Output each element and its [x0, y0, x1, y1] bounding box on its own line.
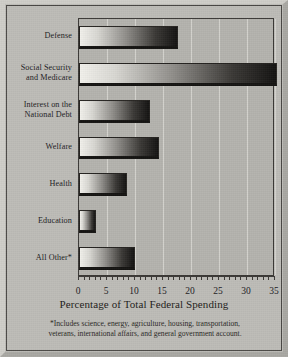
x-minor-tick: [201, 276, 202, 280]
x-minor-tick: [128, 276, 129, 280]
bar-row: [79, 137, 273, 160]
figure-chart-federal-spending: DefenseSocial Securityand MedicareIntere…: [0, 0, 288, 357]
category-label-line: Welfare: [46, 142, 72, 152]
bar: [79, 247, 135, 270]
bar-row: [79, 210, 273, 233]
x-minor-tick: [274, 276, 275, 280]
x-tick-label-15: 15: [147, 285, 177, 297]
x-minor-tick: [240, 276, 241, 280]
x-tick-label-25: 25: [203, 285, 233, 297]
x-minor-tick: [252, 276, 253, 280]
category-label: Welfare: [46, 142, 72, 152]
x-axis-title: Percentage of Total Federal Spending: [0, 297, 288, 311]
category-label-line: Social Security: [21, 63, 72, 73]
bar: [79, 100, 150, 123]
x-minor-tick: [84, 276, 85, 280]
x-minor-tick: [145, 276, 146, 280]
x-minor-tick: [162, 276, 163, 280]
bars-group: [79, 19, 273, 275]
x-tick-label-10: 10: [119, 285, 149, 297]
x-minor-tick: [212, 276, 213, 280]
x-minor-tick: [224, 276, 225, 280]
bar: [79, 63, 277, 86]
category-label-line: and Medicare: [21, 73, 72, 83]
x-minor-tick: [112, 276, 113, 280]
bar-row: [79, 100, 273, 123]
gridline-35: [275, 19, 276, 275]
bar: [79, 26, 178, 49]
x-minor-tick: [184, 276, 185, 280]
bar: [79, 210, 96, 233]
x-minor-tick: [235, 276, 236, 280]
x-minor-tick: [156, 276, 157, 280]
x-minor-tick: [106, 276, 107, 280]
category-label: Social Securityand Medicare: [21, 63, 72, 82]
category-label-line: Health: [50, 179, 72, 189]
x-tick-label-20: 20: [175, 285, 205, 297]
category-label-line: Education: [38, 216, 72, 226]
bar-row: [79, 173, 273, 196]
x-minor-tick: [196, 276, 197, 280]
footnote-line-2: veterans, international affairs, and gen…: [18, 329, 272, 339]
bar-row: [79, 26, 273, 49]
bar: [79, 137, 159, 160]
x-tick-label-30: 30: [231, 285, 261, 297]
x-minor-tick: [123, 276, 124, 280]
x-minor-tick: [151, 276, 152, 280]
x-minor-tick: [168, 276, 169, 280]
x-tick-label-0: 0: [63, 285, 93, 297]
x-minor-tick: [229, 276, 230, 280]
category-label: Interest on theNational Debt: [24, 100, 72, 119]
plot-area: [78, 18, 274, 276]
x-minor-tick: [134, 276, 135, 280]
x-minor-tick: [218, 276, 219, 280]
category-label-line: National Debt: [24, 110, 72, 120]
x-minor-tick: [100, 276, 101, 280]
x-minor-tick: [263, 276, 264, 280]
category-label-line: Interest on the: [24, 100, 72, 110]
category-label: Health: [50, 179, 72, 189]
category-label: Defense: [44, 31, 72, 41]
x-minor-tick: [78, 276, 79, 280]
footnote-line-1: *Includes science, energy, agriculture, …: [18, 319, 272, 329]
x-minor-tick: [95, 276, 96, 280]
x-minor-tick: [179, 276, 180, 280]
x-minor-tick: [173, 276, 174, 280]
bar-row: [79, 63, 273, 86]
x-minor-tick: [257, 276, 258, 280]
x-minor-tick: [246, 276, 247, 280]
x-tick-label-35: 35: [259, 285, 288, 297]
x-minor-tick: [207, 276, 208, 280]
x-minor-tick: [89, 276, 90, 280]
x-tick-label-5: 5: [91, 285, 121, 297]
x-minor-tick: [268, 276, 269, 280]
x-minor-tick: [140, 276, 141, 280]
category-label-line: Defense: [44, 31, 72, 41]
x-axis-minor-ticks: [78, 276, 274, 283]
category-label: All Other*: [36, 253, 72, 263]
category-label-line: All Other*: [36, 253, 72, 263]
bar: [79, 173, 127, 196]
footnote: *Includes science, energy, agriculture, …: [18, 319, 272, 339]
bar-row: [79, 247, 273, 270]
x-minor-tick: [190, 276, 191, 280]
category-label: Education: [38, 216, 72, 226]
x-minor-tick: [117, 276, 118, 280]
category-axis-labels: DefenseSocial Securityand MedicareIntere…: [0, 18, 76, 276]
